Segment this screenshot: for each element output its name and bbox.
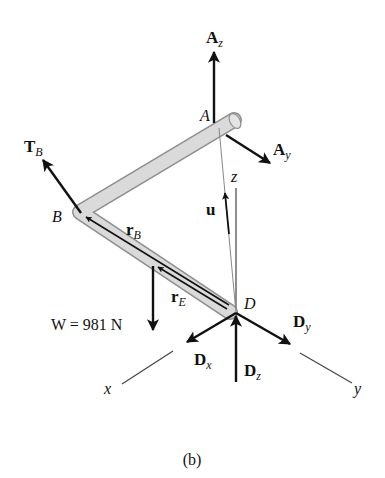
- bent-rod: [80, 112, 243, 312]
- TB-force-arrow: [43, 160, 81, 213]
- force-label-W: W = 981 N: [51, 316, 123, 333]
- point-label-D: D: [243, 295, 256, 312]
- u-unit-vector-arrow: [225, 193, 229, 234]
- Dy-force-arrow: [236, 313, 290, 344]
- y-axis-line: [300, 353, 352, 383]
- free-body-diagram: A B D z x y Az Ay TB W = 981 N Dx Dy Dz …: [0, 0, 385, 478]
- force-label-Dy: Dy: [293, 312, 311, 334]
- vector-label-rB: rB: [126, 220, 142, 242]
- force-label-Dx: Dx: [194, 350, 212, 372]
- Ay-force-arrow: [226, 135, 270, 163]
- force-label-Dz: Dz: [244, 361, 261, 383]
- point-label-A: A: [199, 107, 210, 124]
- axis-label-x: x: [103, 380, 111, 397]
- axis-label-y: y: [352, 380, 362, 398]
- vector-label-u: u: [206, 200, 215, 219]
- force-label-Az: Az: [206, 28, 223, 50]
- figure-caption: (b): [183, 451, 202, 469]
- x-axis-line: [122, 351, 173, 384]
- force-label-TB: TB: [24, 137, 43, 159]
- point-label-B: B: [52, 208, 62, 225]
- rE-vector-arrow: [158, 267, 227, 309]
- rB-vector-arrow: [86, 217, 229, 305]
- force-label-Ay: Ay: [273, 140, 291, 162]
- axis-label-z: z: [230, 168, 238, 185]
- Dx-force-arrow: [187, 313, 236, 342]
